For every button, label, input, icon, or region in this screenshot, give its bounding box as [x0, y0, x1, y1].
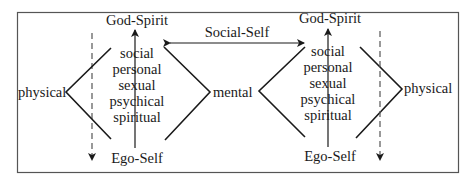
right-level-3: psychical [301, 91, 356, 107]
right-level-2: sexual [309, 75, 346, 91]
right-outer-chevron [356, 47, 402, 138]
left-outer-label: physical [18, 84, 66, 100]
right-bottom-label: Ego-Self [304, 148, 356, 164]
right-top-label: God-Spirit [299, 10, 361, 26]
right-level-4: spiritual [304, 107, 352, 123]
left-level-3: psychical [110, 93, 165, 109]
self-model-diagram: physical God-Spirit social personal sexu… [0, 0, 472, 179]
connector-label: Social-Self [205, 24, 270, 40]
left-top-label: God-Spirit [106, 12, 168, 28]
left-level-0: social [120, 45, 154, 61]
social-self-connector: Social-Self [170, 24, 304, 43]
left-outer-chevron [66, 48, 111, 139]
left-level-2: sexual [118, 77, 155, 93]
right-panel: God-Spirit social personal sexual psychi… [259, 10, 452, 164]
left-bottom-label: Ego-Self [111, 150, 163, 166]
left-panel: physical God-Spirit social personal sexu… [18, 12, 210, 166]
left-level-1: personal [112, 61, 161, 77]
left-inner-chevron [164, 47, 210, 140]
right-inner-chevron [259, 47, 305, 137]
right-level-1: personal [303, 59, 352, 75]
right-outer-label: physical [404, 80, 452, 96]
left-level-4: spiritual [113, 109, 161, 125]
middle-label: mental [213, 84, 252, 100]
right-level-0: social [311, 43, 345, 59]
